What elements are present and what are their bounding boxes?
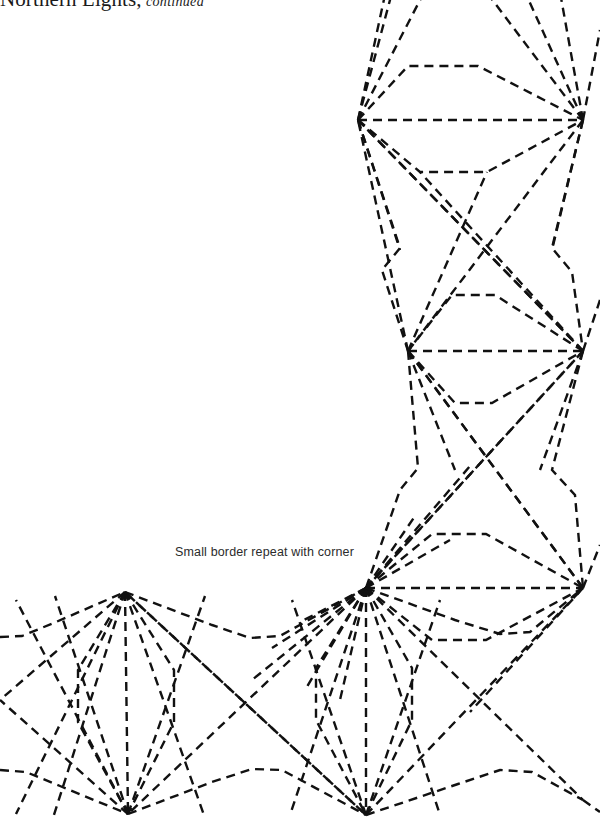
edge-lower-mid [128,769,366,815]
bulge-right-upper [552,120,583,351]
border-pattern-diagram [0,0,600,819]
fan-ray-7 [340,588,366,700]
edge-upper-mid [125,588,366,638]
ray-down-left [408,351,583,588]
bleed-right-top [583,30,600,120]
ray-down-d [366,588,583,800]
horizontal-band-upper-edge [0,588,583,638]
edge-lower-right [366,770,583,815]
bottom-left-diamond [0,592,366,818]
corner-fan [252,516,450,700]
edge-upper-left [0,592,125,637]
fan-ray-2 [366,540,450,588]
ray-up-right [358,120,583,351]
ray-lower-right-to-mid [408,120,583,351]
bleed-right-mid [583,300,600,351]
fan-left-a [0,592,125,700]
inner-lozenge-lower [408,351,583,403]
diamond-spine [125,592,128,814]
corner-diamond [366,351,583,712]
ray-down-c [128,588,366,814]
page-canvas: Northern Lights, continued Small border … [0,0,600,819]
inner-lozenge-upper [358,66,583,120]
bottom-centre-diamond [125,588,583,815]
bulge-right-lower [552,351,583,588]
ray-up-left-2 [408,172,487,351]
inner-lozenge-upper [366,534,583,588]
ray-right-node-up [408,351,583,588]
edge-bleed-strokes [583,30,600,812]
bulge-left-lower [366,351,418,588]
ray-up-right-2 [420,172,583,351]
edge-upper-right [366,588,583,634]
fan-bl-c [128,596,205,814]
bleed-right-bottom [583,545,600,588]
ray-upper-mid-right [478,0,583,120]
vertical-band-middle-diamond [358,120,583,588]
bleed-right-low [583,800,600,812]
ray-up-left [358,120,408,351]
fan-ray-1 [366,516,415,588]
ray-down-right-2 [540,351,583,470]
ray-upper-outer-left [358,0,408,120]
ray-corner-up-right [366,351,583,588]
ray-upper-far-left [358,0,398,120]
ray-upper-mid-left [358,0,478,120]
ray-up-b [366,600,440,815]
vertical-band-top-diamond [358,0,583,351]
inner-lozenge-right [125,592,174,814]
ray-down-left-2 [408,351,455,470]
inner-lozenge-lower [358,120,583,172]
ray-corner-up-right-short [366,466,470,588]
edge-lower-left [0,770,128,814]
fan-left-d [125,592,205,818]
